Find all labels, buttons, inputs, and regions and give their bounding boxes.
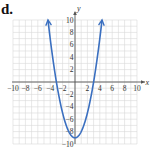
x-axis-arrow-icon <box>141 80 145 84</box>
y-tick-label: −6 <box>66 115 74 124</box>
parabola-chart: d. −10−8−6−4−2246810108642−2−4−6−8−10 x … <box>0 0 150 147</box>
y-tick-label: −2 <box>66 90 74 99</box>
panel-label: d. <box>1 1 13 17</box>
x-tick-label: 4 <box>98 84 102 93</box>
x-tick-label: −4 <box>46 84 54 93</box>
x-tick-label: −10 <box>7 84 19 93</box>
y-tick-label: −10 <box>62 140 74 147</box>
x-tick-label: 2 <box>86 84 90 93</box>
y-tick-label: 6 <box>70 40 74 49</box>
x-tick-label: −6 <box>34 84 42 93</box>
x-tick-label: 10 <box>133 84 141 93</box>
y-axis-label: y <box>76 4 81 13</box>
y-tick-label: −4 <box>66 102 74 111</box>
x-tick-label: −8 <box>21 84 29 93</box>
y-tick-label: 8 <box>70 28 74 37</box>
x-axis-label: x <box>145 78 150 87</box>
y-tick-label: 2 <box>70 65 74 74</box>
y-tick-label: 4 <box>70 53 74 62</box>
x-tick-label: 8 <box>123 84 127 93</box>
y-tick-label: 10 <box>66 16 74 25</box>
x-tick-label: 6 <box>110 84 114 93</box>
axes <box>12 11 145 144</box>
tick-labels: −10−8−6−4−2246810108642−2−4−6−8−10 <box>7 16 141 147</box>
